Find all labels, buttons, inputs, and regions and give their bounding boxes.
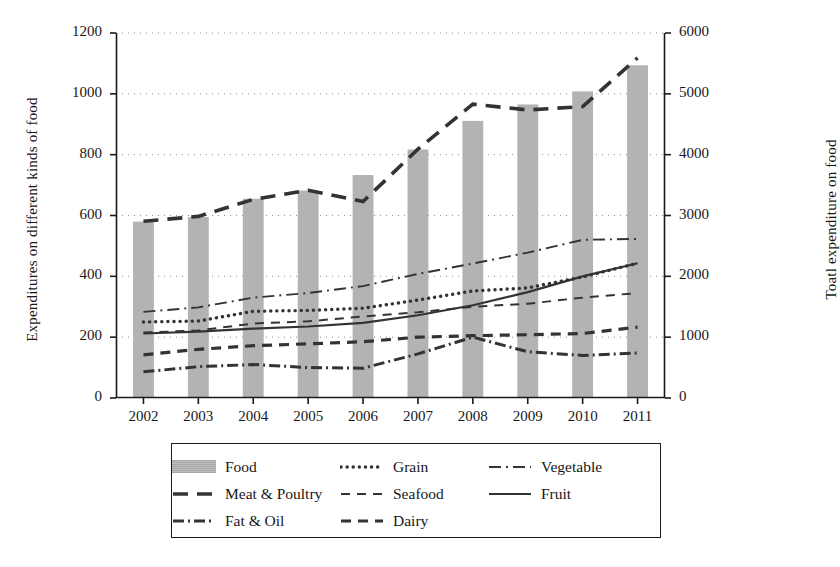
legend-swatch-dashdot (488, 460, 532, 474)
legend-swatch-line (172, 514, 216, 528)
legend-item-grain[interactable]: Grain (340, 453, 434, 480)
legend-row: Meat & PoultrySeafoodFruit (172, 480, 660, 507)
legend-swatch-dotted (340, 460, 384, 474)
legend-swatch-solid (488, 487, 532, 501)
legend-swatch-line (340, 460, 384, 474)
legend-swatch-dashed2 (340, 514, 384, 528)
legend-swatch-line (172, 487, 216, 501)
y-axis-left-tick-label: 400 (42, 266, 102, 283)
legend-label: Vegetable (532, 458, 608, 476)
line-fruit (143, 263, 637, 333)
bar-food (627, 65, 648, 398)
y-axis-right-tick-label: 0 (679, 388, 739, 405)
legend-label: Fat & Oil (216, 512, 290, 530)
legend-label: Dairy (384, 512, 434, 530)
bar-food (572, 91, 593, 398)
y-axis-left-tick-label: 200 (42, 327, 102, 344)
bar-food (408, 149, 429, 398)
legend-swatch-bar-fill (172, 460, 216, 473)
y-axis-right-tick-label: 1000 (679, 327, 739, 344)
bar-food (462, 121, 483, 398)
legend-label: Meat & Poultry (216, 485, 328, 503)
legend-swatch-longdash (172, 487, 216, 501)
chart-canvas (102, 27, 681, 426)
y-axis-right-tick-label: 3000 (679, 206, 739, 223)
y-axis-left-tick-label: 1000 (42, 84, 102, 101)
x-axis-tick-label: 2002 (113, 408, 173, 425)
legend-item-dairy[interactable]: Dairy (340, 507, 434, 534)
y-axis-left-tick-label: 1200 (42, 23, 102, 40)
legend-row: Fat & OilDairy (172, 507, 660, 534)
x-axis-tick-label: 2010 (553, 408, 613, 425)
line-meat-poultry (143, 58, 637, 221)
legend-item-vegetable[interactable]: Vegetable (488, 453, 608, 480)
y-axis-left-tick-label: 800 (42, 145, 102, 162)
x-axis-tick-label: 2006 (333, 408, 393, 425)
legend-swatch-bar (172, 460, 216, 474)
legend-swatch-line (488, 487, 532, 501)
legend-item-food[interactable]: Food (172, 453, 263, 480)
legend-swatch-line (488, 460, 532, 474)
legend-item-fat-oil[interactable]: Fat & Oil (172, 507, 290, 534)
y-axis-right-tick-label: 2000 (679, 266, 739, 283)
plot-area (102, 27, 681, 426)
line-vegetable (143, 239, 637, 312)
legend-label: Food (216, 458, 263, 476)
legend-item-fruit[interactable]: Fruit (488, 480, 577, 507)
legend-row: FoodGrainVegetable (172, 453, 660, 480)
y-axis-left-title: Expenditures on different kinds of food (24, 40, 41, 400)
x-axis-tick-label: 2003 (168, 408, 228, 425)
legend-label: Seafood (384, 485, 450, 503)
chart-legend: FoodGrainVegetableMeat & PoultrySeafoodF… (171, 443, 661, 538)
x-axis-tick-label: 2008 (443, 408, 503, 425)
legend-item-seafood[interactable]: Seafood (340, 480, 450, 507)
x-axis-tick-label: 2007 (388, 408, 448, 425)
y-axis-right-tick-label: 6000 (679, 23, 739, 40)
legend-label: Grain (384, 458, 434, 476)
x-axis-tick-label: 2004 (223, 408, 283, 425)
legend-item-meat-poultry[interactable]: Meat & Poultry (172, 480, 328, 507)
y-axis-left-tick-label: 0 (42, 388, 102, 405)
bar-food (517, 104, 538, 398)
line-fat-oil (143, 337, 637, 372)
line-seafood (143, 293, 637, 333)
legend-swatch-dashdotdot (172, 514, 216, 528)
y-axis-right-title: Toatl expenditure on food (823, 40, 840, 400)
line-grain (143, 263, 637, 322)
legend-swatch-line (340, 514, 384, 528)
legend-label: Fruit (532, 485, 577, 503)
x-axis-tick-label: 2009 (498, 408, 558, 425)
x-axis-tick-label: 2011 (608, 408, 668, 425)
x-axis-tick-label: 2005 (278, 408, 338, 425)
y-axis-left-tick-label: 600 (42, 206, 102, 223)
y-axis-right-tick-label: 5000 (679, 84, 739, 101)
legend-swatch-line (340, 487, 384, 501)
y-axis-right-tick-label: 4000 (679, 145, 739, 162)
legend-swatch-dashed (340, 487, 384, 501)
